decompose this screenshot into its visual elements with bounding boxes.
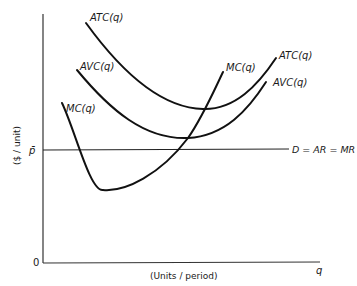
avc-label-left: AVC(q) [79, 61, 114, 72]
cost-curves-diagram: ATC(q) AVC(q) MC(q) MC(q) ATC(q) AVC(q) … [0, 0, 357, 286]
atc-label-left: ATC(q) [89, 12, 123, 23]
mc-label-left: MC(q) [66, 103, 96, 114]
x-axis-end-label: q [316, 265, 322, 276]
mc-label-right: MC(q) [226, 62, 256, 73]
origin-label: 0 [33, 257, 39, 268]
mc-curve [62, 72, 223, 190]
avc-label-right: AVC(q) [272, 77, 307, 88]
demand-line-label: D = AR = MR [292, 144, 355, 155]
atc-label-right: ATC(q) [278, 50, 312, 61]
avc-curve [77, 70, 266, 138]
x-axis-label: (Units / period) [150, 271, 217, 281]
y-axis-label: ($ / unit) [12, 126, 22, 165]
price-tick-label: p̄ [28, 145, 36, 156]
x-axis [43, 262, 320, 263]
